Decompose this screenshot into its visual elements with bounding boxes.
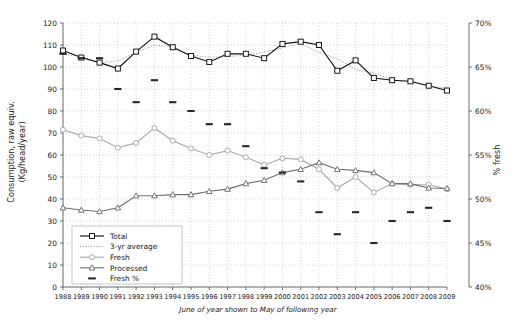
- y-tick-label: 60: [48, 151, 58, 160]
- y2-tick-label: 65%: [475, 63, 491, 72]
- series-marker-fresh: [152, 125, 157, 130]
- x-tick-label: 2000: [274, 293, 291, 301]
- y-tick-label: 70: [48, 129, 58, 138]
- x-tick-label: 1988: [55, 293, 72, 301]
- series-marker-total: [426, 83, 431, 88]
- y-tick-label: 100: [43, 63, 57, 72]
- x-tick-label: 2006: [384, 293, 401, 301]
- series-marker-fresh: [280, 156, 285, 161]
- series-marker-fresh: [61, 127, 66, 132]
- y-tick-label: 30: [48, 217, 58, 226]
- series-marker-fresh: [225, 148, 230, 153]
- series-marker-fresh: [97, 136, 102, 141]
- y2-axis-title: % fresh: [492, 145, 502, 176]
- legend-item-label: Fresh: [110, 253, 130, 262]
- y2-tick-label: 55%: [475, 151, 491, 160]
- legend-marker-fresh: [90, 255, 95, 260]
- x-tick-label: 1996: [201, 293, 218, 301]
- series-marker-total: [152, 34, 157, 39]
- x-tick-label: 1994: [164, 293, 181, 301]
- series-marker-total: [280, 41, 285, 46]
- series-marker-fresh: [317, 167, 322, 172]
- series-marker-total: [225, 51, 230, 56]
- y-tick-label: 90: [48, 85, 58, 94]
- x-tick-label: 1989: [73, 293, 90, 301]
- y-axis-title-line2: (Kg/head/year): [17, 121, 27, 182]
- series-marker-total: [134, 49, 139, 54]
- legend-item-label: Total: [109, 232, 127, 241]
- series-marker-total: [170, 45, 175, 50]
- x-tick-label: 1991: [109, 293, 126, 301]
- y-tick-label: 20: [48, 239, 58, 248]
- series-marker-fresh: [79, 133, 84, 138]
- x-tick-label: 1992: [128, 293, 145, 301]
- y-tick-label: 80: [48, 107, 58, 116]
- x-tick-label: 1998: [237, 293, 254, 301]
- x-tick-label: 2004: [347, 293, 364, 301]
- series-marker-total: [353, 58, 358, 63]
- series-marker-total: [97, 60, 102, 65]
- series-marker-fresh: [335, 186, 340, 191]
- series-marker-total: [115, 66, 120, 71]
- y-axis-title-line1: Consumption, raw equiv.: [6, 101, 16, 203]
- series-marker-total: [207, 59, 212, 64]
- y-tick-label: 120: [43, 19, 57, 28]
- x-tick-label: 1995: [183, 293, 200, 301]
- series-marker-fresh: [207, 153, 212, 158]
- series-marker-fresh: [353, 175, 358, 180]
- series-marker-fresh: [170, 138, 175, 143]
- series-marker-total: [390, 78, 395, 83]
- x-axis-tick-labels: 1988198919901991199219931994199519961997…: [55, 293, 456, 301]
- series-marker-fresh: [115, 145, 120, 150]
- x-tick-label: 2003: [329, 293, 346, 301]
- x-tick-label: 2007: [402, 293, 419, 301]
- series-marker-total: [243, 51, 248, 56]
- legend-item-label: Fresh %: [110, 274, 139, 283]
- series-marker-total: [262, 56, 267, 61]
- x-tick-label: 1997: [219, 293, 236, 301]
- series-marker-total: [445, 88, 450, 93]
- legend-marker-total: [90, 234, 95, 239]
- y2-tick-label: 60%: [475, 107, 491, 116]
- x-tick-label: 2001: [292, 293, 309, 301]
- series-marker-total: [189, 54, 194, 59]
- legend-item-label: 3-yr average: [110, 242, 158, 251]
- series-marker-fresh: [243, 155, 248, 160]
- x-tick-label: 2002: [311, 293, 328, 301]
- y2-tick-label: 70%: [475, 19, 491, 28]
- x-tick-label: 1990: [91, 293, 108, 301]
- series-marker-total: [298, 39, 303, 44]
- y2-tick-label: 50%: [475, 195, 491, 204]
- series-marker-fresh: [189, 146, 194, 151]
- y2-tick-label: 45%: [475, 239, 491, 248]
- consumption-line-chart: 0102030405060708090100110120 40%45%50%55…: [0, 0, 518, 324]
- series-marker-total: [371, 76, 376, 81]
- x-tick-label: 2008: [420, 293, 437, 301]
- series-marker-fresh: [262, 162, 267, 167]
- series-marker-fresh: [298, 157, 303, 162]
- y-tick-label: 50: [48, 173, 58, 182]
- chart-container: 0102030405060708090100110120 40%45%50%55…: [0, 0, 518, 324]
- chart-legend: Total3-yr averageFreshProcessedFresh %: [72, 226, 182, 284]
- series-marker-total: [61, 48, 66, 53]
- x-tick-label: 1993: [146, 293, 163, 301]
- x-tick-label: 1999: [256, 293, 273, 301]
- series-marker-fresh: [134, 140, 139, 145]
- y-tick-label: 110: [43, 41, 57, 50]
- series-marker-total: [408, 79, 413, 84]
- y-tick-label: 0: [52, 283, 57, 292]
- series-marker-total: [335, 68, 340, 73]
- series-marker-fresh: [371, 190, 376, 195]
- x-tick-label: 2009: [439, 293, 456, 301]
- x-axis-title: June of year shown to May of following y…: [177, 305, 337, 314]
- series-marker-total: [317, 43, 322, 48]
- y-tick-label: 10: [48, 261, 58, 270]
- y2-tick-label: 40%: [475, 283, 491, 292]
- y-tick-label: 40: [48, 195, 58, 204]
- legend-item-label: Processed: [110, 264, 148, 273]
- x-tick-label: 2005: [365, 293, 382, 301]
